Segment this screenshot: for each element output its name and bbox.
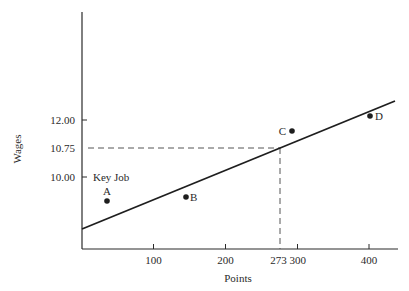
y-ticks — [82, 120, 87, 177]
x-axis-label: Points — [224, 272, 252, 284]
point-a: A — [103, 185, 111, 204]
x-tick-label-100: 100 — [145, 254, 162, 266]
x-ticks — [154, 244, 370, 249]
y-axis-label: Wages — [11, 134, 23, 163]
point-d-label: D — [375, 110, 383, 122]
key-job-label: Key Job — [93, 171, 130, 183]
x-tick-label-400: 400 — [361, 254, 378, 266]
wage-points-chart: 100 200 273 300 400 Points 12.00 10.75 1… — [0, 0, 409, 291]
wage-trend-line — [82, 101, 395, 229]
x-tick-label-273-300: 273 300 — [270, 254, 306, 266]
point-a-label: A — [103, 185, 111, 197]
point-b: B — [183, 191, 197, 203]
x-tick-label-200: 200 — [217, 254, 234, 266]
point-c: C — [279, 125, 295, 137]
y-tick-label-10-75: 10.75 — [50, 142, 75, 154]
y-tick-label-10: 10.00 — [50, 171, 75, 183]
point-b-label: B — [190, 191, 197, 203]
point-c-label: C — [279, 125, 286, 137]
y-tick-label-12: 12.00 — [50, 114, 75, 126]
